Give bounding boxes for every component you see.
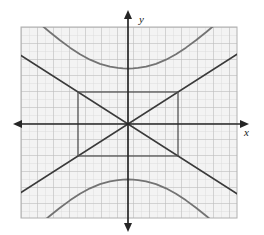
y-axis-label: y bbox=[138, 13, 144, 25]
plot-canvas: y x bbox=[0, 0, 264, 235]
x-axis-left-arrowhead bbox=[13, 120, 22, 128]
y-axis-down-arrowhead bbox=[124, 223, 132, 232]
x-axis-label: x bbox=[243, 126, 249, 138]
hyperbola-figure: y x bbox=[0, 0, 264, 235]
y-axis-up-arrowhead bbox=[124, 10, 132, 19]
